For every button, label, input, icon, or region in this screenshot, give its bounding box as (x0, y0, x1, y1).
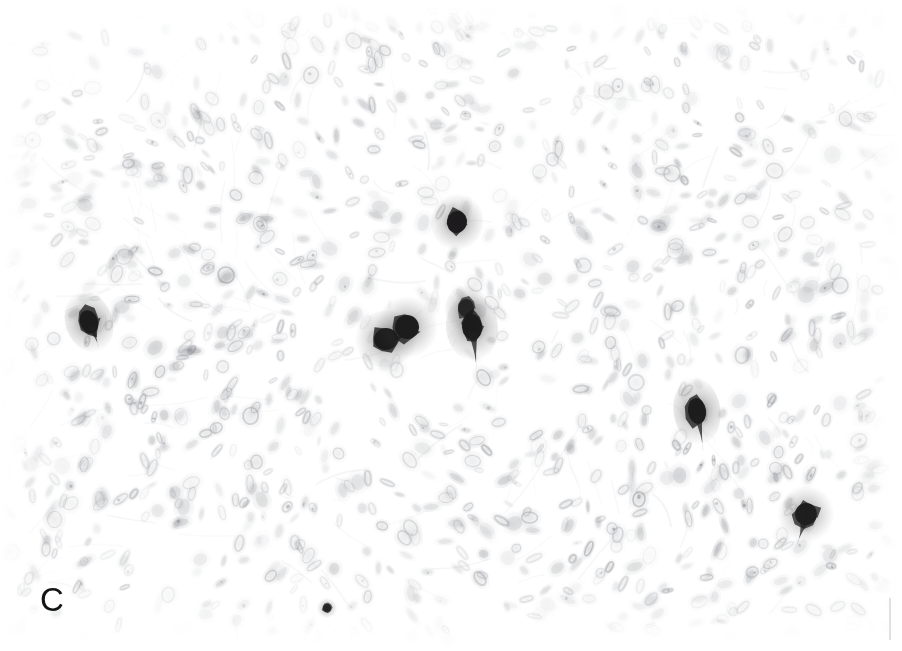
panel-label: C (40, 583, 64, 616)
edge-artifact-mark (889, 598, 891, 640)
tissue-field-canvas (0, 0, 902, 651)
micrograph-figure: C (0, 0, 902, 651)
micrograph-image (0, 0, 902, 651)
